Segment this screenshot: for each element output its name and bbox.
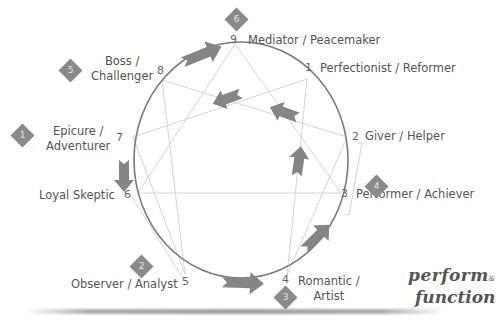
type-number-7: 7 xyxy=(116,131,123,144)
badge-number: 5 xyxy=(62,62,79,79)
type-name-4: Romantic / Artist xyxy=(298,274,360,304)
type-name-9: Mediator / Peacemaker xyxy=(248,33,380,48)
badge-diamond-6: 6 xyxy=(224,7,248,31)
type-number-3: 3 xyxy=(341,187,348,200)
bottom-shadow-divider xyxy=(25,309,445,314)
type-name-8: Boss / Challenger xyxy=(91,54,153,84)
type-number-6: 6 xyxy=(124,188,131,201)
type-number-2: 2 xyxy=(352,130,359,143)
type-name-2: Giver / Helper xyxy=(365,129,445,144)
type-name-4-line1: Romantic / xyxy=(298,274,360,289)
type-name-8-line1: Boss / xyxy=(91,54,153,69)
badge-number: 1 xyxy=(14,127,31,144)
type-number-8: 8 xyxy=(157,64,164,77)
logo-line2: function xyxy=(415,288,496,306)
type-number-1: 1 xyxy=(305,61,312,74)
type-name-1: Perfectionist / Reformer xyxy=(320,61,456,76)
logo-ampersand: & xyxy=(489,275,496,283)
type-number-4: 4 xyxy=(282,273,289,286)
badge-number: 6 xyxy=(228,11,245,28)
badge-diamond-4: 4 xyxy=(364,174,388,198)
type-name-4-line2: Artist xyxy=(298,289,360,304)
type-name-5: Observer / Analyst xyxy=(71,277,178,292)
type-name-7-line2: Adventurer xyxy=(46,139,110,154)
badge-diamond-3: 3 xyxy=(273,285,297,309)
badge-number: 2 xyxy=(133,258,150,275)
perform-function-logo: perform& function xyxy=(408,266,496,306)
type-name-6: Loyal Skeptic xyxy=(39,188,115,203)
type-name-7: Epicure / Adventurer xyxy=(46,124,110,154)
type-number-9: 9 xyxy=(230,33,237,46)
badge-number: 4 xyxy=(368,178,385,195)
arrow-inner-2-to-8 xyxy=(266,98,301,127)
badge-diamond-2: 2 xyxy=(129,254,153,278)
badge-number: 3 xyxy=(277,289,294,306)
badge-diamond-5: 5 xyxy=(58,58,82,82)
badge-diamond-1: 1 xyxy=(10,123,34,147)
arrow-inner-4-to-1 xyxy=(287,145,311,177)
arrow-inner-1-to-7 xyxy=(209,84,244,113)
type-name-8-line2: Challenger xyxy=(91,69,153,84)
logo-line1: perform xyxy=(408,265,489,285)
arrow-5-to-4 xyxy=(222,271,265,294)
arrow-8-to-9 xyxy=(178,36,225,72)
type-name-7-line1: Epicure / xyxy=(46,124,110,139)
type-number-5: 5 xyxy=(182,275,189,288)
